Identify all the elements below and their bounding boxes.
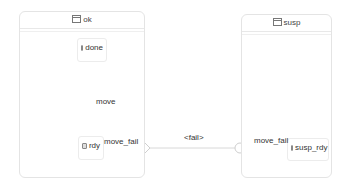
- container-header: ok: [20, 12, 144, 29]
- state-rdy[interactable]: rdy: [78, 136, 104, 160]
- container-icon: [72, 15, 81, 23]
- container-title: susp: [284, 18, 301, 27]
- transition-label-move-fail-exit[interactable]: move_fail: [104, 137, 138, 146]
- state-icon: [81, 45, 83, 51]
- container-title: ok: [83, 15, 91, 24]
- transition-label-move-fail-entry[interactable]: move_fail: [254, 136, 288, 145]
- state-icon: [291, 145, 293, 151]
- container-icon: [273, 18, 282, 26]
- container-divider: [20, 31, 144, 32]
- container-header: susp: [242, 15, 331, 32]
- state-label: susp_rdy: [295, 143, 327, 152]
- state-label: rdy: [89, 141, 100, 150]
- container-divider: [242, 34, 331, 35]
- transition-label-fail[interactable]: <fail>: [184, 133, 204, 142]
- state-done[interactable]: done: [77, 38, 107, 62]
- state-icon: [82, 143, 87, 149]
- transition-label-move[interactable]: move: [96, 97, 116, 106]
- state-label: done: [85, 43, 103, 52]
- state-susp-rdy[interactable]: susp_rdy: [287, 138, 329, 161]
